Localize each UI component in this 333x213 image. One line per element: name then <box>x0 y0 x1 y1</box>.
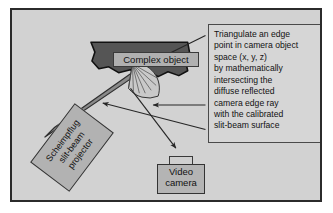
video-camera-label: Video camera <box>157 164 205 194</box>
diagram-panel: Complex object Video camera Scheimpflug … <box>10 8 322 202</box>
arrow-to-beam <box>103 103 206 129</box>
diagram-figure: Complex object Video camera Scheimpflug … <box>0 0 333 213</box>
complex-object-label: Complex object <box>113 52 199 67</box>
annotation-textbox: Triangulate an edge point in camera obje… <box>208 24 322 143</box>
